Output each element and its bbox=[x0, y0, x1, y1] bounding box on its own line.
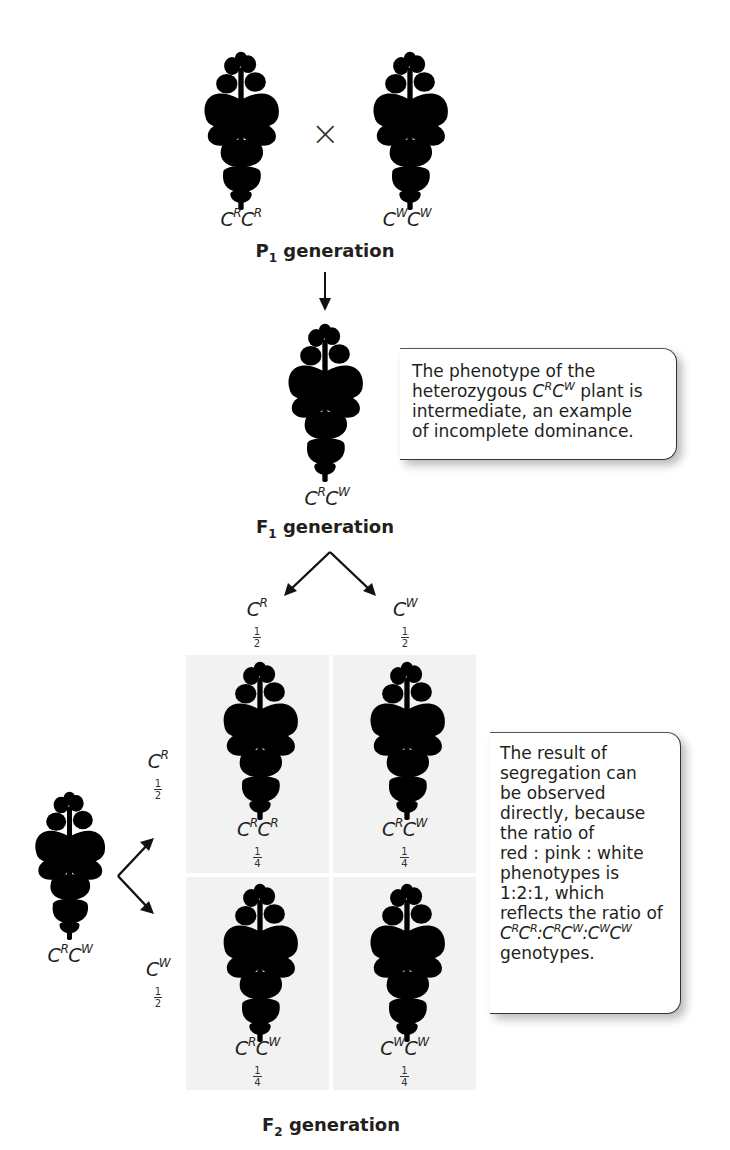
gamete-top-w: CW 12 bbox=[385, 598, 425, 649]
split-arrows-icon bbox=[280, 550, 380, 598]
punnett-label-rr: CRCR 14 bbox=[186, 818, 329, 869]
pink-snapdragon-f2-bottom bbox=[215, 882, 305, 1042]
p1-generation-title: P1 generation bbox=[240, 240, 410, 261]
punnett-label-rw-top: CRCW 14 bbox=[333, 818, 476, 869]
callout-incomplete-dominance: The phenotype of the heterozygous CRCW p… bbox=[400, 348, 677, 460]
split-arrows-left-icon bbox=[114, 836, 156, 916]
white-snapdragon-p1 bbox=[365, 50, 455, 210]
red-snapdragon-p1 bbox=[196, 50, 286, 210]
gamete-left-w: CW 12 bbox=[140, 958, 176, 1009]
pink-snapdragon-f1 bbox=[280, 322, 370, 482]
pink-snapdragon-f2-top bbox=[362, 660, 452, 820]
arrow-down-icon bbox=[318, 272, 332, 312]
white-snapdragon-f2 bbox=[362, 882, 452, 1042]
pink-snapdragon-left-parent bbox=[22, 790, 117, 940]
f2-generation-title: F2 generation bbox=[246, 1114, 416, 1135]
f1-generation-title: F1 generation bbox=[240, 516, 410, 537]
red-snapdragon-f2 bbox=[215, 660, 305, 820]
cross-symbol: × bbox=[311, 116, 340, 150]
genotype-label-p1-white: CWCW bbox=[362, 208, 452, 230]
genotype-label-left-parent: CRCW bbox=[25, 944, 115, 966]
punnett-label-rw-bottom: CRCW 14 bbox=[186, 1037, 329, 1088]
punnett-label-ww: CWCW 14 bbox=[333, 1037, 476, 1088]
gamete-left-r: CR 12 bbox=[140, 750, 176, 801]
gamete-top-r: CR 12 bbox=[237, 598, 277, 649]
callout-segregation-result: The result of segregation can be observe… bbox=[490, 732, 681, 1014]
genotype-label-p1-red: CRCR bbox=[196, 208, 286, 230]
genotype-label-f1: CRCW bbox=[282, 487, 372, 509]
